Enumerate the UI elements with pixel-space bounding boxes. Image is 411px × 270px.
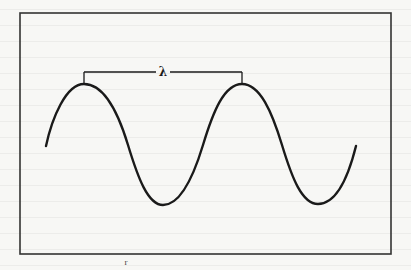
stray-scan-mark: r [125,257,128,267]
wavelength-diagram: λ r [0,0,411,270]
wavelength-bracket: λ [84,65,242,84]
wavelength-label: λ [159,65,167,79]
sine-wave [46,84,356,205]
